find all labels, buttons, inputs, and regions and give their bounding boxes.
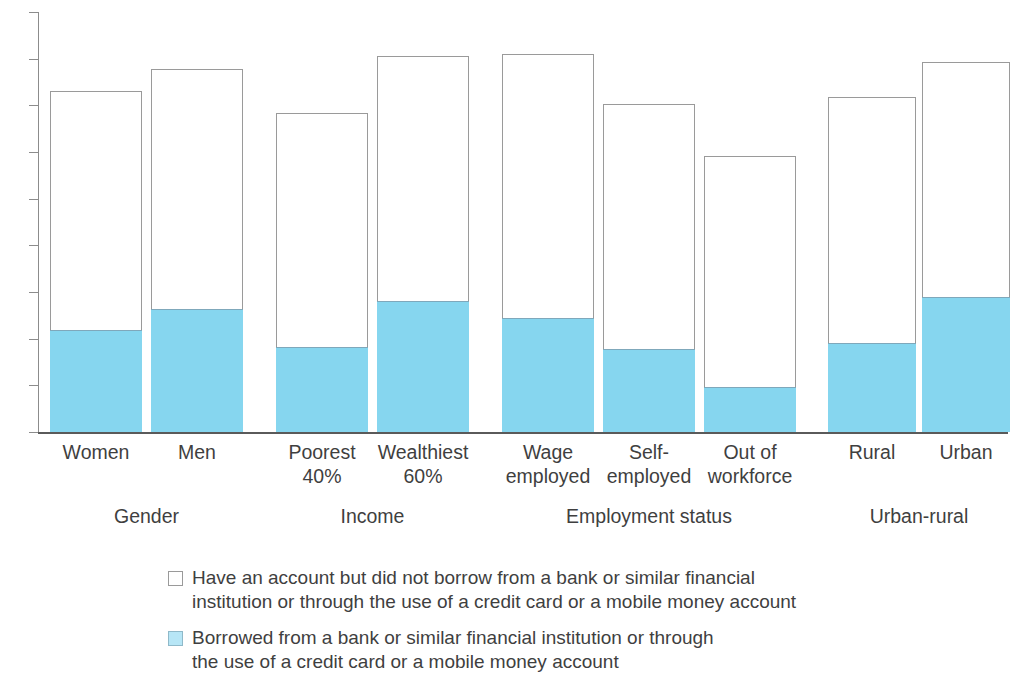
- bar-2: [151, 69, 243, 432]
- y-axis-tick: [29, 432, 38, 433]
- group-label-3: Employment status: [502, 505, 796, 528]
- legend-swatch-blue: [168, 631, 183, 646]
- bar-segment-borrowed: [704, 387, 796, 432]
- x-axis-line: [38, 432, 1008, 434]
- x-axis-label-2: Men: [139, 440, 255, 464]
- bar-segment-borrowed: [922, 297, 1010, 432]
- group-label-4: Urban-rural: [828, 505, 1010, 528]
- y-axis-tick: [29, 292, 38, 293]
- group-label-2: Income: [276, 505, 469, 528]
- legend-item-2: Borrowed from a bank or similar financia…: [168, 626, 868, 674]
- x-axis-label-9: Urban: [910, 440, 1014, 464]
- bar-4: [377, 56, 469, 432]
- bar-segment-borrowed: [603, 349, 695, 432]
- y-axis-tick: [29, 385, 38, 386]
- bar-segment-borrowed: [50, 330, 142, 432]
- bar-1: [50, 91, 142, 432]
- plot-area: [38, 12, 1008, 433]
- legend-label-1: Have an account but did not borrow from …: [192, 566, 796, 614]
- y-axis-tick: [29, 152, 38, 153]
- bar-segment-borrowed: [502, 318, 594, 432]
- x-axis-label-5: Wage employed: [490, 440, 606, 488]
- bar-9: [922, 62, 1010, 432]
- x-axis-label-7: Out of workforce: [692, 440, 808, 488]
- bar-segment-borrowed: [151, 309, 243, 432]
- x-axis-label-4: Wealthiest 60%: [365, 440, 481, 488]
- y-axis-tick: [29, 105, 38, 106]
- bar-segment-borrowed: [276, 347, 368, 432]
- bar-segment-borrowed: [377, 301, 469, 432]
- y-axis-tick: [29, 59, 38, 60]
- bar-8: [828, 97, 916, 432]
- legend-label-2: Borrowed from a bank or similar financia…: [192, 626, 714, 674]
- group-label-1: Gender: [50, 505, 243, 528]
- y-axis-line: [38, 12, 39, 433]
- bar-3: [276, 113, 368, 432]
- x-axis-label-3: Poorest 40%: [264, 440, 380, 488]
- y-axis-tick: [29, 339, 38, 340]
- x-axis-label-6: Self- employed: [591, 440, 707, 488]
- legend: Have an account but did not borrow from …: [168, 566, 868, 674]
- bar-segment-borrowed: [828, 343, 916, 432]
- bar-5: [502, 54, 594, 432]
- y-axis-tick: [29, 199, 38, 200]
- x-axis-label-1: Women: [38, 440, 154, 464]
- legend-item-1: Have an account but did not borrow from …: [168, 566, 868, 614]
- legend-swatch-white: [168, 571, 183, 586]
- bar-7: [704, 156, 796, 432]
- y-axis-tick: [29, 12, 38, 13]
- bar-6: [603, 104, 695, 432]
- y-axis-tick: [29, 245, 38, 246]
